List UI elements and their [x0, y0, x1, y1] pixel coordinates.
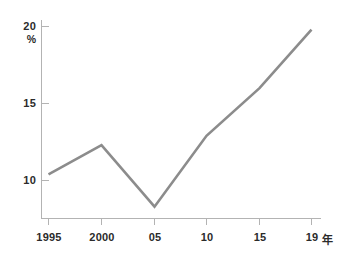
- data-series-line: [49, 30, 312, 207]
- y-axis-label-15: 15: [10, 97, 36, 109]
- x-axis-label-10: 10: [178, 231, 236, 243]
- x-axis-label-05: 05: [126, 231, 184, 243]
- chart-plot-area: [0, 0, 348, 254]
- y-axis-unit-label: %: [10, 33, 36, 45]
- y-axis-label-20: 20: [10, 20, 36, 32]
- line-chart: 20 % 15 10 1995 2000 05 10 15 19 年: [0, 0, 348, 254]
- x-axis-label-2000: 2000: [73, 231, 131, 243]
- x-axis-label-15: 15: [231, 231, 289, 243]
- x-axis-label-1995: 1995: [20, 231, 78, 243]
- x-axis-unit-suffix: 年: [322, 231, 333, 247]
- y-axis-label-10: 10: [10, 174, 36, 186]
